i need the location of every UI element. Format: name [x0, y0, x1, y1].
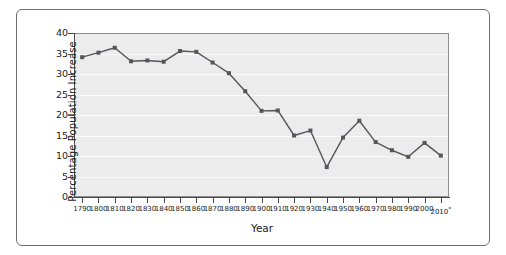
x-axis-tick	[196, 198, 197, 203]
data-point-marker	[390, 148, 394, 152]
data-point-marker	[211, 61, 215, 65]
data-point-marker	[341, 136, 345, 140]
y-axis-tick-label: 5	[46, 172, 68, 181]
data-point-marker	[276, 108, 280, 112]
x-axis-tick	[229, 198, 230, 203]
y-axis-tick-label: 30	[46, 69, 68, 78]
y-axis-tick-label: 0	[46, 192, 68, 201]
x-axis-tick	[147, 198, 148, 203]
x-axis-tick	[262, 198, 263, 203]
series-line	[82, 48, 441, 167]
x-axis-tick	[213, 198, 214, 203]
x-axis-tick	[327, 198, 328, 203]
y-axis-tick	[68, 115, 74, 116]
data-series	[74, 33, 449, 197]
y-axis-tick-label: 20	[46, 110, 68, 119]
y-axis-tick-label: 25	[46, 90, 68, 99]
data-point-marker	[308, 129, 312, 133]
data-point-marker	[243, 89, 247, 93]
y-axis-tick	[68, 197, 74, 198]
y-axis-tick-labels: 0510152025303540	[42, 0, 68, 255]
x-axis-tick-label: 2010*	[424, 205, 458, 216]
x-axis-tick	[82, 198, 83, 203]
data-point-marker	[357, 119, 361, 123]
data-point-marker	[374, 140, 378, 144]
x-axis-tick	[115, 198, 116, 203]
x-axis-tick	[245, 198, 246, 203]
data-point-marker	[439, 154, 443, 158]
x-axis-tick	[294, 198, 295, 203]
data-point-marker	[129, 59, 133, 63]
series-markers	[80, 46, 443, 169]
data-point-marker	[113, 46, 117, 50]
data-point-marker	[292, 134, 296, 138]
data-point-marker	[227, 71, 231, 75]
x-axis-tick	[376, 198, 377, 203]
x-axis-tick	[180, 198, 181, 203]
x-axis-tick	[425, 198, 426, 203]
y-axis-tick-label: 15	[46, 131, 68, 140]
data-point-marker	[406, 155, 410, 159]
y-axis-tick-label: 35	[46, 49, 68, 58]
data-point-marker	[423, 141, 427, 145]
y-axis-tick	[68, 54, 74, 55]
x-axis-tick	[343, 198, 344, 203]
figure: 0510152025303540 Percentage Population I…	[0, 0, 506, 255]
data-point-marker	[145, 58, 149, 62]
x-axis-tick	[408, 198, 409, 203]
x-axis-tick	[310, 198, 311, 203]
x-axis-tick	[164, 198, 165, 203]
data-point-marker	[260, 109, 264, 113]
x-axis-tick	[278, 198, 279, 203]
x-axis-tick	[441, 198, 442, 203]
data-point-marker	[162, 60, 166, 64]
x-axis-title: Year	[74, 222, 450, 234]
x-axis-tick	[359, 198, 360, 203]
data-point-marker	[96, 51, 100, 55]
y-axis-tick	[68, 136, 74, 137]
x-axis-tick	[392, 198, 393, 203]
data-point-marker	[178, 49, 182, 53]
y-axis-tick-label: 10	[46, 151, 68, 160]
x-axis-tick	[131, 198, 132, 203]
y-axis-tick	[68, 33, 74, 34]
y-axis-tick	[68, 177, 74, 178]
y-axis-tick	[68, 74, 74, 75]
y-axis-tick-label: 40	[46, 28, 68, 37]
data-point-marker	[80, 55, 84, 59]
x-axis-tick	[98, 198, 99, 203]
data-point-marker	[325, 165, 329, 169]
data-point-marker	[194, 50, 198, 54]
y-axis-tick	[68, 156, 74, 157]
y-axis-tick	[68, 95, 74, 96]
